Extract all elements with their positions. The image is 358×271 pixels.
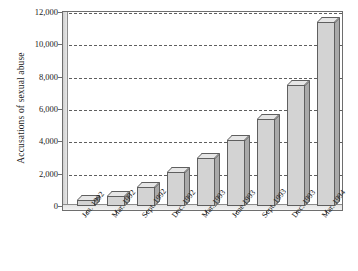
- bar-side-face: [335, 17, 340, 206]
- y-axis-tick-label: 8,000: [0, 73, 58, 82]
- y-axis-tick-label: 6,000: [0, 105, 58, 114]
- bar-side-face: [305, 80, 310, 206]
- bar-chart-figure: Accusations of sexual abuse 02,0004,0006…: [0, 0, 358, 271]
- y-axis-tick-label: 2,000: [0, 170, 58, 179]
- y-axis-tick-label: 10,000: [0, 40, 58, 49]
- y-axis-tick-label: 0: [0, 202, 58, 211]
- y-axis-tick-label: 12,000: [0, 8, 58, 17]
- y-axis-tick-label: 4,000: [0, 137, 58, 146]
